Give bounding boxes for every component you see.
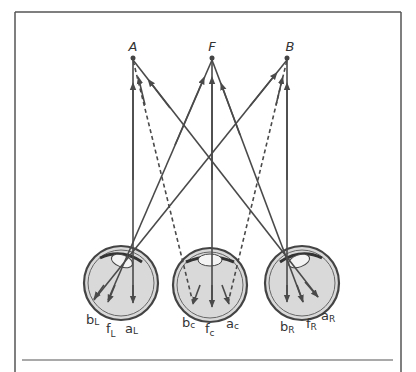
- point-f: [210, 56, 215, 61]
- label-b: B: [286, 39, 295, 54]
- lens-icon: [198, 254, 222, 266]
- label-f: F: [208, 39, 216, 54]
- label-ac: ac: [226, 316, 239, 331]
- eye-center: [173, 248, 247, 322]
- diagram-figure: A F B bL fL aL bc fc ac bR fR aR: [0, 0, 416, 372]
- label-aL: aL: [125, 321, 138, 336]
- label-aR: aR: [321, 308, 335, 324]
- point-a: [131, 56, 136, 61]
- label-bR: bR: [280, 319, 295, 335]
- label-fc: fc: [205, 321, 215, 338]
- label-a: A: [128, 39, 138, 54]
- label-bL: bL: [86, 312, 99, 327]
- eye-left: [84, 246, 158, 320]
- object-points: A F B: [128, 39, 295, 61]
- label-fL: fL: [106, 321, 116, 339]
- point-b: [285, 56, 290, 61]
